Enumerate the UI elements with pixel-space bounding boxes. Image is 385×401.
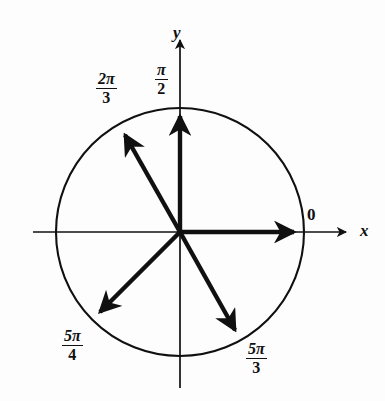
ray-5pi-over-3 (180, 232, 235, 330)
angle-label-2pi-over-3-denominator: 3 (96, 89, 117, 106)
angle-label-5pi-over-3-numerator: 5π (246, 341, 267, 359)
angle-label-5pi-over-4-denominator: 4 (62, 346, 83, 363)
angle-label-5pi-over-4: 5π 4 (62, 328, 83, 363)
x-axis-label: x (360, 222, 369, 239)
angle-label-2pi-over-3: 2π 3 (96, 71, 117, 106)
angle-label-5pi-over-3: 5π 3 (246, 341, 267, 376)
angle-label-5pi-over-4-numerator: 5π (62, 328, 83, 346)
angle-label-2pi-over-3-numerator: 2π (96, 71, 117, 89)
angle-label-0: 0 (307, 206, 316, 223)
angle-label-5pi-over-3-denominator: 3 (246, 359, 267, 376)
ray-2pi-over-3 (125, 135, 180, 232)
angle-label-pi-over-2: π 2 (155, 62, 168, 97)
angle-label-pi-over-2-denominator: 2 (155, 80, 168, 97)
unit-circle-drawing (0, 0, 385, 401)
angle-label-pi-over-2-numerator: π (155, 62, 168, 80)
unit-circle-figure: y x 0 π 2 2π 3 5π 4 5π 3 (0, 0, 385, 401)
y-axis-label: y (173, 24, 181, 41)
ray-5pi-over-4 (100, 232, 180, 312)
